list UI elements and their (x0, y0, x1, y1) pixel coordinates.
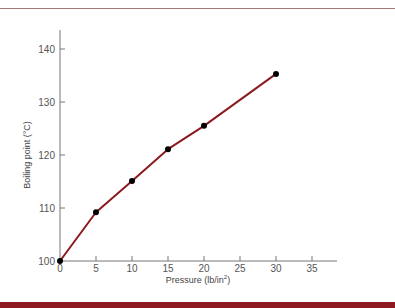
x-tick-label: 20 (198, 263, 210, 274)
x-tick-label: 15 (162, 263, 174, 274)
data-point-marker (93, 209, 99, 215)
y-tick-label: 110 (39, 203, 55, 214)
series-line (60, 74, 276, 261)
x-tick-label: 5 (93, 263, 99, 274)
x-tick-label: 0 (57, 263, 63, 274)
x-tick-label: 25 (234, 263, 246, 274)
x-tick-label: 10 (126, 263, 138, 274)
y-tick-label: 100 (38, 256, 55, 267)
data-point-marker (57, 258, 63, 264)
x-tick-label: 30 (270, 263, 282, 274)
data-point-marker (129, 178, 135, 184)
bottom-band (0, 302, 395, 308)
x-axis-label: Pressure (lb/in2) (166, 274, 230, 285)
data-point-marker (273, 71, 279, 77)
data-point-marker (165, 146, 171, 152)
axes: 05101520253035100110120130140 (38, 30, 337, 274)
line-chart: 05101520253035100110120130140 Pressure (… (0, 0, 395, 308)
y-tick-label: 140 (38, 44, 55, 55)
y-axis-label: Boiling point (°C) (22, 121, 32, 189)
data-series (57, 71, 279, 264)
x-tick-label: 35 (306, 263, 318, 274)
y-tick-label: 130 (38, 97, 55, 108)
data-point-marker (201, 123, 207, 129)
y-tick-label: 120 (38, 150, 55, 161)
